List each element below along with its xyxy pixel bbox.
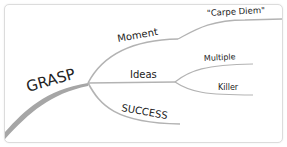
branch-multiple (175, 64, 253, 82)
node-ideas: Ideas (130, 69, 157, 80)
node-grasp: GRASP (24, 65, 77, 96)
mind-map-canvas: GRASP Moment "Carpe Diem" Ideas Multiple… (0, 0, 287, 147)
node-killer: Killer (218, 83, 239, 92)
branch-carpe-diem (178, 19, 282, 39)
branch-ideas (88, 82, 175, 83)
branch-grasp-trunk (5, 83, 88, 139)
branch-killer (175, 82, 253, 95)
node-carpe-diem: "Carpe Diem" (207, 5, 266, 18)
node-multiple: Multiple (204, 52, 236, 63)
node-success: SUCCESS (121, 102, 169, 121)
